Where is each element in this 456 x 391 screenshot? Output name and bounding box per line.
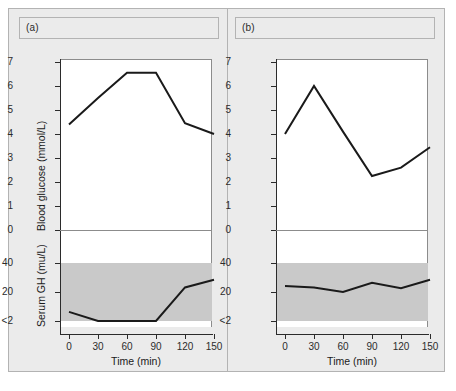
panel-a-xlabel-120: 120: [172, 341, 198, 352]
panel-b-ytick-7: [271, 62, 276, 63]
panel-a-gh-ytick-40: [55, 263, 60, 264]
panel-a-label: (a): [26, 22, 39, 33]
panel-a-ytick-3: [55, 158, 60, 159]
panel-b-glucose-plot-area: [276, 59, 428, 231]
panel-b-gh-ylabel-lt2: <2: [220, 315, 231, 326]
panel-a-xlabel-60: 60: [114, 341, 140, 352]
panel-b-ylabel-3: 3: [225, 152, 231, 163]
panel-b-xtick-90: [372, 334, 373, 339]
panel-b-ytick-6: [271, 86, 276, 87]
panel-b-xlabel-30: 30: [301, 341, 327, 352]
panel-b-zero-line: [276, 230, 428, 231]
panel-a-xtick-30: [98, 334, 99, 339]
panel-b-xlabel-90: 90: [359, 341, 385, 352]
panel-a-ylabel-0: 0: [7, 224, 13, 235]
panel-b-x-axis-title: Time (min): [276, 355, 428, 367]
panel-a-ytick-0: [55, 230, 60, 231]
panel-b-xlabel-60: 60: [330, 341, 356, 352]
panel-a: (a) 7 6 5 4 3 2 1 0: [9, 9, 227, 371]
panel-a-ytick-5: [55, 110, 60, 111]
panel-a-y-axis: [60, 59, 61, 334]
panel-a-xtick-150: [214, 334, 215, 339]
panel-a-gh-normal-range-band: [60, 263, 212, 321]
panel-a-xtick-60: [127, 334, 128, 339]
panel-a-zero-line: [60, 230, 212, 231]
panel-b-xtick-0: [285, 334, 286, 339]
panel-a-gh-ylabel-20: 20: [2, 286, 13, 297]
panel-b-gh-ytick-lt2: [271, 321, 276, 322]
panel-b-xtick-30: [314, 334, 315, 339]
panel-b-ylabel-4: 4: [225, 128, 231, 139]
panel-a-label-strip: (a): [19, 17, 219, 39]
panel-a-gh-ytick-20: [55, 292, 60, 293]
panel-a-gh-ylabel-lt2: <2: [2, 315, 13, 326]
panel-a-glucose-plot-area: [60, 59, 212, 231]
figure-frame: (a) 7 6 5 4 3 2 1 0: [8, 8, 445, 372]
panel-b-xlabel-150: 150: [417, 341, 443, 352]
panel-a-x-axis: [60, 334, 213, 335]
panel-b-y-axis: [276, 59, 277, 334]
panel-b-gh-normal-range-band: [276, 263, 428, 321]
panel-a-xlabel-0: 0: [56, 341, 82, 352]
panel-b-ylabel-1: 1: [225, 200, 231, 211]
panel-a-ytick-2: [55, 182, 60, 183]
panel-b-gh-ylabel-20: 20: [220, 286, 231, 297]
panel-b-ylabel-7: 7: [225, 56, 231, 67]
panel-a-gh-ytick-lt2: [55, 321, 60, 322]
panel-b-ylabel-6: 6: [225, 80, 231, 91]
panel-b-ylabel-5: 5: [225, 104, 231, 115]
panel-a-ylabel-5: 5: [7, 104, 13, 115]
figure-root: (a) 7 6 5 4 3 2 1 0: [0, 0, 456, 391]
panel-a-ylabel-1: 1: [7, 200, 13, 211]
panel-b-xlabel-0: 0: [272, 341, 298, 352]
panel-b-ytick-4: [271, 134, 276, 135]
panel-b-ytick-2: [271, 182, 276, 183]
panel-b-ylabel-0: 0: [225, 224, 231, 235]
panel-a-ytick-4: [55, 134, 60, 135]
panel-a-x-axis-title: Time (min): [60, 355, 212, 367]
panel-b-ytick-1: [271, 206, 276, 207]
panel-b-ytick-3: [271, 158, 276, 159]
panel-a-gh-ylabel-40: 40: [2, 257, 13, 268]
panel-a-xtick-90: [156, 334, 157, 339]
panel-a-ylabel-7: 7: [7, 56, 13, 67]
panel-a-xlabel-150: 150: [201, 341, 227, 352]
panel-a-gh-axis-title: Serum GH (mu/L): [35, 244, 47, 327]
panel-b-label: (b): [242, 22, 255, 33]
panel-b-xtick-120: [401, 334, 402, 339]
panel-b: (b) 7 6 5 4 3 2 1 0: [227, 9, 445, 371]
panel-a-ytick-6: [55, 86, 60, 87]
panel-b-x-axis: [276, 334, 429, 335]
panel-a-ylabel-4: 4: [7, 128, 13, 139]
panel-b-gh-ytick-40: [271, 263, 276, 264]
panel-a-ylabel-2: 2: [7, 176, 13, 187]
panel-b-xlabel-120: 120: [388, 341, 414, 352]
panel-b-ytick-0: [271, 230, 276, 231]
panel-b-gh-ytick-20: [271, 292, 276, 293]
panel-a-ytick-1: [55, 206, 60, 207]
panel-b-label-strip: (b): [235, 17, 435, 39]
panel-b-gh-ylabel-40: 40: [220, 257, 231, 268]
panel-a-xlabel-90: 90: [143, 341, 169, 352]
panel-a-glucose-axis-title: Blood glucose (mmol/L): [35, 121, 47, 231]
panel-a-xlabel-30: 30: [85, 341, 111, 352]
panel-a-ylabel-6: 6: [7, 80, 13, 91]
panel-a-xtick-0: [69, 334, 70, 339]
panel-a-ylabel-3: 3: [7, 152, 13, 163]
panel-b-xtick-60: [343, 334, 344, 339]
panel-b-ylabel-2: 2: [225, 176, 231, 187]
panel-b-ytick-5: [271, 110, 276, 111]
panel-b-xtick-150: [430, 334, 431, 339]
panel-a-ytick-7: [55, 62, 60, 63]
panel-a-xtick-120: [185, 334, 186, 339]
